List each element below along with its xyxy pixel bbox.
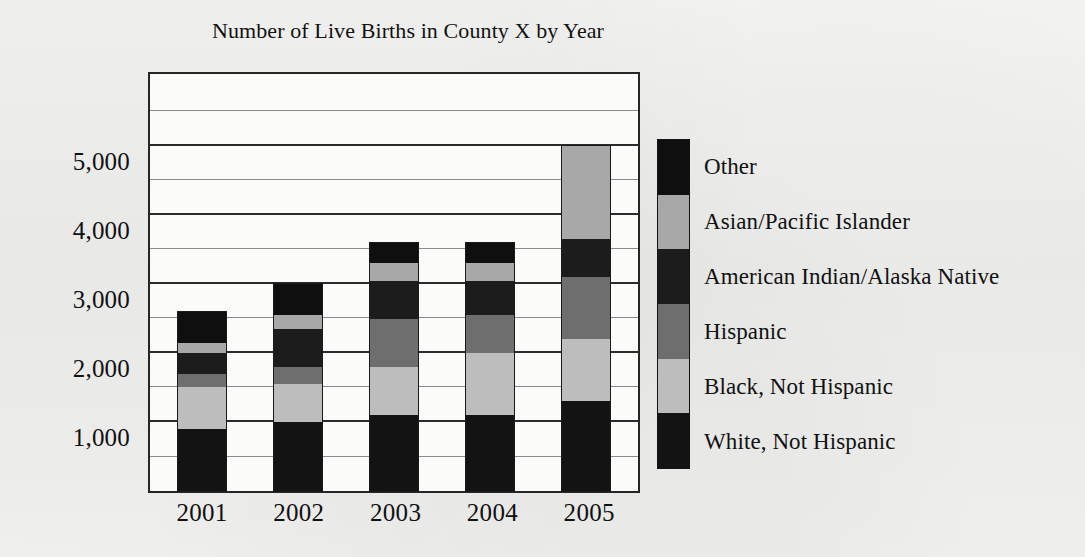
- legend-label: Black, Not Hispanic: [704, 359, 1077, 414]
- bar-segment: [562, 277, 610, 339]
- bar-segment: [562, 146, 610, 239]
- bar-segment: [466, 281, 514, 316]
- bar-column-2001: [178, 312, 226, 491]
- bar-segment: [370, 367, 418, 415]
- bar-segment: [562, 401, 610, 491]
- bar-segment: [466, 315, 514, 353]
- bar-segment: [370, 263, 418, 280]
- bar-segment: [274, 384, 322, 422]
- bar-segment: [274, 422, 322, 491]
- bar-segment: [274, 284, 322, 315]
- bars-layer: [150, 74, 638, 491]
- legend-swatch: [658, 413, 689, 468]
- bar-column-2005: [562, 146, 610, 491]
- x-axis: 20012002200320042005: [148, 499, 640, 543]
- chart-page: Number of Live Births in County X by Yea…: [0, 0, 1085, 557]
- bar-segment: [178, 374, 226, 388]
- bar-segment: [370, 415, 418, 491]
- bar-segment: [466, 415, 514, 491]
- x-tick-label-2002: 2002: [273, 499, 321, 527]
- x-tick-label-2004: 2004: [467, 499, 515, 527]
- legend-label: Other: [704, 139, 1077, 194]
- legend-swatch: [658, 249, 689, 304]
- legend-swatch: [658, 195, 689, 250]
- bar-segment: [178, 312, 226, 343]
- bar-segment: [370, 319, 418, 367]
- bar-column-2002: [274, 284, 322, 491]
- bar-segment: [562, 239, 610, 277]
- bar-column-2004: [466, 243, 514, 491]
- bar-segment: [178, 343, 226, 353]
- bar-segment: [274, 315, 322, 329]
- legend-label: Hispanic: [704, 304, 1077, 359]
- legend-label: American Indian/Alaska Native: [704, 249, 1077, 304]
- bar-segment: [178, 429, 226, 491]
- legend: OtherAsian/Pacific IslanderAmerican Indi…: [657, 139, 1077, 469]
- bar-segment: [370, 243, 418, 264]
- legend-swatch: [658, 140, 689, 195]
- legend-swatch: [658, 304, 689, 359]
- chart-title: Number of Live Births in County X by Yea…: [148, 18, 668, 44]
- legend-label: White, Not Hispanic: [704, 414, 1077, 469]
- legend-swatch-bar: [657, 139, 690, 469]
- legend-swatch: [658, 359, 689, 414]
- bar-segment: [562, 339, 610, 401]
- bar-segment: [466, 353, 514, 415]
- x-tick-label-2001: 2001: [176, 499, 224, 527]
- y-axis: 1,0002,0003,0004,0005,000: [0, 72, 140, 493]
- bar-segment: [274, 329, 322, 367]
- bar-segment: [178, 353, 226, 374]
- x-tick-label-2003: 2003: [370, 499, 418, 527]
- bar-segment: [274, 367, 322, 384]
- x-tick-label-2005: 2005: [564, 499, 612, 527]
- bar-segment: [466, 243, 514, 264]
- plot-area: [148, 72, 640, 493]
- bar-segment: [466, 263, 514, 280]
- bar-segment: [370, 281, 418, 319]
- bar-column-2003: [370, 243, 418, 491]
- legend-labels: OtherAsian/Pacific IslanderAmerican Indi…: [704, 139, 1077, 469]
- legend-label: Asian/Pacific Islander: [704, 194, 1077, 249]
- bar-segment: [178, 387, 226, 428]
